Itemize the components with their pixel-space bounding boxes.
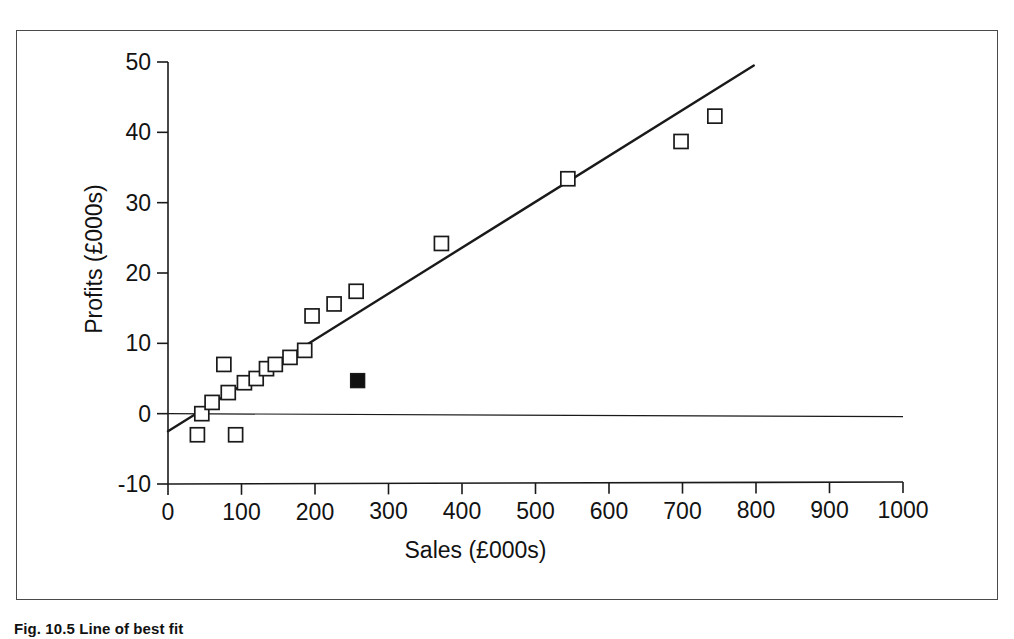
y-tick-label--10: -10 [118,471,151,497]
data-point-0-15 [434,236,448,250]
x-tick-label-900: 900 [810,497,848,523]
x-tick-label-0: 0 [162,499,175,525]
y-tick-label-40: 40 [125,119,151,145]
x-tick-label-200: 200 [296,499,334,525]
figure-frame: -100102030405001002003004005006007008009… [16,30,998,600]
zero-reference-line [168,414,903,417]
x-tick-label-1000: 1000 [877,497,928,523]
data-point-0-5 [229,428,243,442]
data-point-0-2 [205,395,219,409]
scatter-plot: -100102030405001002003004005006007008009… [17,31,999,601]
y-axis-title: Profits (£000s) [81,184,107,334]
data-point-0-13 [327,297,341,311]
data-point-0-4 [221,386,235,400]
x-tick-label-500: 500 [516,498,554,524]
data-point-0-17 [674,134,688,148]
x-axis-title: Sales (£000s) [405,537,547,563]
data-point-filled-1-0 [351,374,365,388]
data-point-0-3 [217,357,231,371]
figure-root: -100102030405001002003004005006007008009… [0,0,1014,639]
x-tick-label-600: 600 [590,498,628,524]
x-tick-label-700: 700 [663,498,701,524]
figure-caption: Fig. 10.5 Line of best fit [14,620,183,637]
data-point-0-18 [708,109,722,123]
y-tick-label-50: 50 [125,49,151,75]
data-point-0-12 [305,309,319,323]
data-point-0-16 [561,172,575,186]
x-tick-label-300: 300 [369,498,407,524]
data-point-0-14 [349,284,363,298]
y-tick-label-20: 20 [125,260,151,286]
y-tick-label-0: 0 [138,401,151,427]
x-tick-label-400: 400 [443,498,481,524]
data-point-0-9 [268,357,282,371]
x-tick-label-100: 100 [222,499,260,525]
data-point-0-11 [298,343,312,357]
data-point-0-0 [190,428,204,442]
y-tick-label-10: 10 [125,330,151,356]
y-tick-label-30: 30 [125,190,151,216]
x-tick-label-800: 800 [737,497,775,523]
data-point-0-10 [283,350,297,364]
